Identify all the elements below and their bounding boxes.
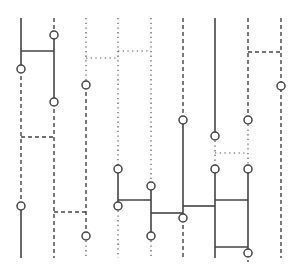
node-circle <box>82 81 90 89</box>
node-circle <box>211 132 219 140</box>
node-circle <box>50 31 58 39</box>
node-circle <box>244 165 252 173</box>
node-circle <box>50 98 58 106</box>
node-circle <box>114 202 122 210</box>
node-circle <box>244 249 252 257</box>
diagram-segments <box>21 18 281 262</box>
node-circle <box>244 116 252 124</box>
node-circle <box>17 65 25 73</box>
node-circle <box>147 232 155 240</box>
ladder-diagram <box>0 0 300 279</box>
node-circle <box>147 182 155 190</box>
node-circle <box>17 202 25 210</box>
node-circle <box>179 214 187 222</box>
node-circle <box>179 116 187 124</box>
node-circle <box>277 82 285 90</box>
node-circle <box>211 165 219 173</box>
node-circle <box>82 232 90 240</box>
node-circle <box>114 165 122 173</box>
